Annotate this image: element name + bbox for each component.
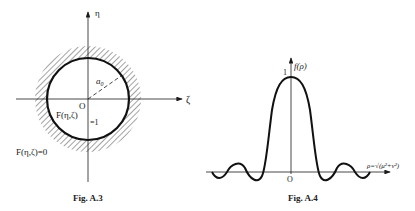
caption-fig-a4: Fig. A.4 [288, 193, 318, 203]
hatched-region [0, 0, 415, 211]
zeta-label: ζ [186, 94, 190, 106]
rho-label: ρ=√(μ²+ν²) [366, 162, 400, 170]
peak-label: 1 [283, 68, 287, 77]
caption-fig-a3: Fig. A.3 [73, 193, 103, 203]
inside-value-label: =1 [90, 118, 99, 127]
fig-a3: η ζ O a0 F(η,ζ) =1 F(η,ζ)=0 Fig. A.3 [0, 0, 415, 211]
figure-canvas: η ζ O a0 F(η,ζ) =1 F(η,ζ)=0 Fig. A.3 1 f… [0, 0, 415, 211]
eta-label: η [95, 8, 100, 18]
inside-function-label: F(η,ζ) [56, 110, 78, 120]
origin-label-a4: O [287, 175, 293, 184]
origin-label: O [79, 101, 86, 111]
f-rho-label: f(ρ) [294, 61, 307, 71]
outside-function-label: F(η,ζ)=0 [16, 147, 48, 157]
